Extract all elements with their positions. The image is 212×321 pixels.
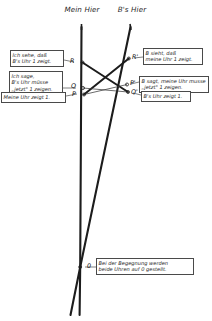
point-label-O: 0 [87, 263, 91, 269]
axis-title-mein-hier: Mein Hier [62, 6, 102, 14]
point-label-Rprime: R' [132, 54, 138, 60]
note-begegnung: Bei der Begegnung werden beide Uhren auf… [96, 258, 194, 275]
tick-bs-hier [130, 24, 131, 30]
note-bs-uhr: B's Uhr zeigt 1. [141, 91, 191, 102]
note-ich-sehe: Ich sehe, daß B's Uhr 1 zeigt. [10, 50, 64, 67]
spacetime-diagram: Mein Hier B's Hier Ich sehe, daß B's Uhr… [0, 0, 212, 321]
point-label-Q: Q [71, 83, 76, 89]
point-label-Qprime: Q' [131, 89, 138, 95]
axis-title-bs-hier: B's Hier [112, 6, 152, 14]
note-ich-sage: Ich sage, B's Uhr müsse „jetzt" 1 zeigen… [9, 71, 63, 94]
point-label-Pprime: P' [130, 80, 136, 86]
point-label-R: R [70, 58, 74, 64]
note-meine-uhr: Meine Uhr zeigt 1. [1, 92, 66, 103]
note-b-sieht: B sieht, daß meine Uhr 1 zeigt. [143, 48, 203, 65]
point-label-P: P [72, 91, 76, 97]
